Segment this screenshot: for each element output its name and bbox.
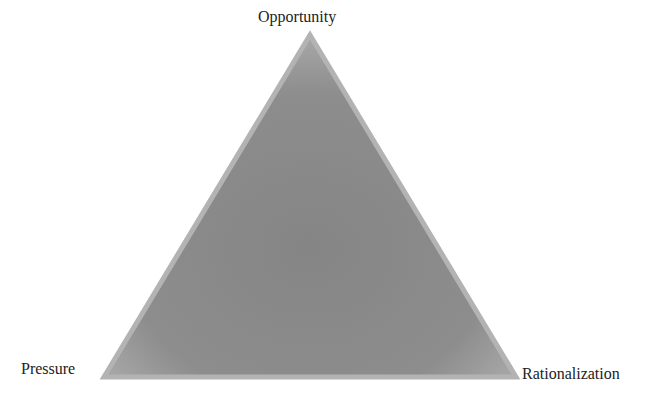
vertex-label-opportunity: Opportunity xyxy=(258,8,336,26)
vertex-label-pressure: Pressure xyxy=(21,360,75,378)
vertex-label-rationalization: Rationalization xyxy=(522,365,620,383)
triangle-shape xyxy=(104,35,516,377)
fraud-triangle xyxy=(0,0,664,395)
